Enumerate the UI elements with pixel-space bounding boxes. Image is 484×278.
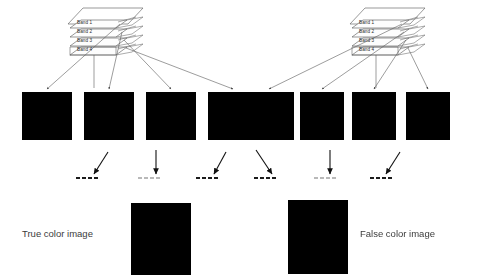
band-3-tile	[146, 92, 196, 140]
dash-segment	[138, 177, 142, 179]
red-channel-bar	[76, 177, 98, 179]
band-1-tile	[244, 92, 294, 140]
dash-segment	[156, 177, 160, 179]
stack-hatch-1	[118, 26, 136, 31]
dash-segment	[196, 177, 200, 179]
diagram-canvas: Band 1Band 2Band 3Band 4True color image…	[0, 0, 484, 278]
band-label-3: Band 3	[77, 39, 92, 44]
dash-segment	[272, 177, 276, 179]
band-to-red-arrow	[94, 152, 108, 174]
false-color-composite	[288, 200, 348, 274]
band-label-1: Band 1	[359, 21, 374, 26]
dash-segment	[314, 177, 318, 179]
band-2-tile	[300, 92, 344, 140]
dash-segment	[266, 177, 270, 179]
band-label-4: Band 4	[359, 48, 374, 53]
band-to-blue-arrow	[214, 152, 226, 174]
dash-segment	[382, 177, 386, 179]
band-3-tile	[352, 92, 396, 140]
band-label-3: Band 3	[359, 39, 374, 44]
dash-segment	[214, 177, 218, 179]
band-label-1: Band 1	[77, 21, 92, 26]
band-to-band-3-tile-connector	[124, 40, 171, 89]
dash-segment	[388, 177, 392, 179]
dash-segment	[82, 177, 86, 179]
dash-segment	[208, 177, 212, 179]
dash-segment	[260, 177, 264, 179]
stack-hatch-0	[118, 17, 136, 22]
band-label-2: Band 2	[77, 30, 92, 35]
band-2-tile	[84, 92, 134, 140]
blue-channel-bar	[370, 177, 392, 179]
green-channel-bar	[138, 177, 160, 179]
true-color-composite	[131, 203, 191, 275]
stack-hatch-0	[400, 17, 418, 22]
band-to-band-1-tile-connector	[269, 24, 402, 89]
stack-hatch-1	[400, 26, 418, 31]
green-channel-bar	[314, 177, 336, 179]
false-color-caption: False color image	[360, 228, 435, 239]
dash-segment	[76, 177, 80, 179]
band-to-band-4-tile-connector	[408, 48, 428, 89]
blue-channel-bar	[196, 177, 218, 179]
dash-segment	[150, 177, 154, 179]
dash-segment	[376, 177, 380, 179]
dash-segment	[370, 177, 374, 179]
dash-segment	[144, 177, 148, 179]
band-label-2: Band 2	[359, 30, 374, 35]
band-label-4: Band 4	[77, 48, 92, 53]
band-to-blue-arrow	[386, 152, 400, 174]
band-1-tile	[22, 92, 72, 140]
red-channel-bar	[254, 177, 276, 179]
dash-segment	[326, 177, 330, 179]
dash-segment	[88, 177, 92, 179]
band-4-tile	[406, 92, 450, 140]
stack-hatch-2	[400, 35, 418, 40]
dash-segment	[332, 177, 336, 179]
true-color-caption: True color image	[22, 228, 93, 239]
band-to-red-arrow	[256, 150, 272, 174]
dash-segment	[94, 177, 98, 179]
band-to-band-4-tile-connector	[126, 48, 233, 89]
dash-segment	[202, 177, 206, 179]
dash-segment	[320, 177, 324, 179]
dash-segment	[254, 177, 258, 179]
